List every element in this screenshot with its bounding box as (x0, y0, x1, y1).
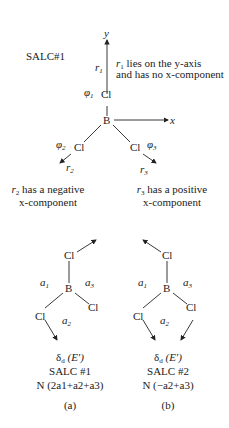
panel-a-boron: B (65, 282, 72, 294)
panel-b-a3: a3 (183, 276, 192, 288)
panel-b-cl-left: Cl (133, 310, 143, 322)
panel-b-salc: SALC #2 (147, 365, 189, 377)
r2-note-line1: r2 has a negative (12, 183, 85, 195)
r2-note-line2: x-component (19, 196, 77, 208)
panel-a-a3: a3 (85, 276, 94, 288)
panel-a-caption: (a) (64, 399, 76, 411)
salc-title: SALC#1 (26, 50, 65, 62)
panel-b-caption: (b) (162, 399, 175, 411)
ligand-cl-3: Cl (130, 141, 140, 153)
r1-label: r1 (95, 61, 103, 73)
panel-b-normalization: N (−a2+a3) (142, 379, 193, 391)
panel-a-a1: a1 (40, 276, 49, 288)
panel-b-boron: B (163, 282, 170, 294)
panel-a-left-arrow (45, 320, 57, 340)
boron-atom: B (103, 114, 110, 126)
panel-b-a1: a1 (138, 276, 147, 288)
panel-a-normalization: N (2a1+a2+a3) (36, 379, 103, 391)
x-axis-label: x (170, 114, 175, 126)
panel-b-top-arrow (143, 240, 161, 252)
panel-a-top-arrow (77, 240, 96, 252)
phi3-label: φ3 (147, 138, 157, 150)
panel-a-symmetry: δd (E′) (56, 351, 84, 363)
panel-a-cl-top: Cl (64, 249, 74, 261)
ligand-cl-1: Cl (101, 88, 111, 100)
panel-b-left-arrow (143, 320, 155, 340)
ligand-cl-2: Cl (74, 141, 84, 153)
panel-a-cl-left: Cl (35, 310, 45, 322)
panel-b-symmetry: δd (E′) (154, 351, 182, 363)
panel-a-salc: SALC #1 (49, 365, 91, 377)
r3-label: r3 (140, 163, 148, 175)
panel-b-right-arrow (181, 320, 193, 340)
panel-a-a2: a2 (62, 314, 71, 326)
r3-note-line2: x-component (143, 196, 201, 208)
r1-note-line2: and has no x-component (116, 68, 224, 80)
panel-b-cl-top: Cl (162, 249, 172, 261)
y-axis-label: y (104, 27, 109, 39)
r3-arrow (143, 154, 156, 163)
r2-label: r2 (66, 161, 74, 173)
r3-note-line1: r3 has a positive (137, 183, 207, 195)
panel-b-cl-right: Cl (186, 301, 196, 313)
phi2-label: φ2 (56, 138, 66, 150)
phi1-label: φ1 (84, 86, 94, 98)
panel-b-a2: a2 (160, 314, 169, 326)
panel-a-cl-right: Cl (88, 301, 98, 313)
